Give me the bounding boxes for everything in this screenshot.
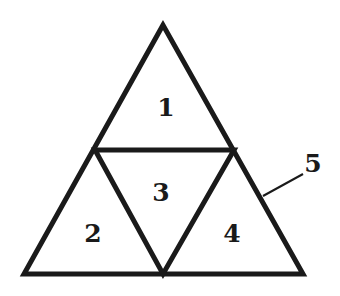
region-label-4: 4	[223, 219, 240, 248]
region-label-2: 2	[84, 219, 101, 248]
region-label-3: 3	[152, 178, 169, 207]
diagram-svg: 1 2 3 4 5	[0, 0, 340, 296]
callout-leader-line	[263, 174, 303, 196]
callout-label-5: 5	[304, 149, 321, 178]
triangle-diagram: 1 2 3 4 5	[0, 0, 340, 296]
inner-triangle	[95, 150, 234, 274]
region-label-1: 1	[157, 93, 174, 122]
